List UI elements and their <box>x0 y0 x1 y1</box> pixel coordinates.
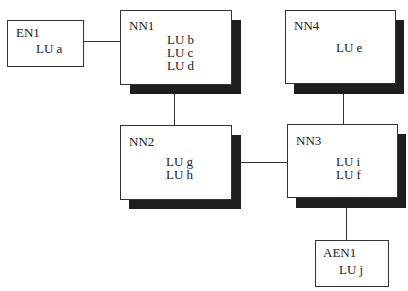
lu-list: LU j <box>339 263 363 276</box>
lu-item: LU a <box>36 42 62 55</box>
node-en1: EN1 LU a <box>7 20 84 67</box>
lu-item: LU f <box>336 168 361 181</box>
edge-nn2-nn3 <box>241 162 287 163</box>
node-nn4: NN4 LU e <box>285 10 396 84</box>
edge-en1-nn1 <box>83 41 121 42</box>
node-name: AEN1 <box>323 246 356 260</box>
node-name: NN2 <box>129 135 154 149</box>
lu-list: LU a <box>36 42 62 55</box>
lu-list: LU e <box>336 41 362 54</box>
lu-item: LU d <box>167 59 194 72</box>
lu-item: LU e <box>336 41 362 54</box>
edge-nn3-aen1 <box>346 208 347 240</box>
edge-nn1-nn2 <box>174 94 175 125</box>
lu-list: LU i LU f <box>336 155 361 181</box>
node-name: NN1 <box>129 19 154 33</box>
node-nn2: NN2 LU g LU h <box>120 125 232 200</box>
lu-list: LU b LU c LU d <box>167 33 194 72</box>
node-nn3: NN3 LU i LU f <box>287 124 398 198</box>
node-name: NN3 <box>296 134 321 148</box>
lu-item: LU h <box>166 168 193 181</box>
node-name: NN4 <box>294 19 319 33</box>
lu-item: LU j <box>339 263 363 276</box>
edge-nn4-nn3 <box>343 94 344 124</box>
node-aen1: AEN1 LU j <box>315 240 389 287</box>
lu-list: LU g LU h <box>166 155 193 181</box>
node-nn1: NN1 LU b LU c LU d <box>120 10 232 85</box>
node-name: EN1 <box>16 26 40 40</box>
